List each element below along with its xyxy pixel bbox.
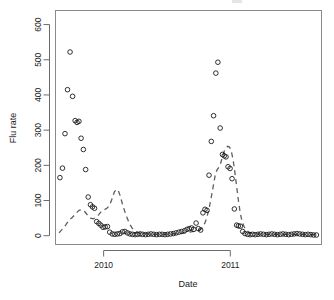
x-axis-title: Date <box>178 279 197 289</box>
y-tick-label: 600 <box>33 17 43 31</box>
x-tick-label: 2010 <box>94 260 113 270</box>
y-tick-label: 100 <box>33 193 43 207</box>
chart-background <box>0 0 334 300</box>
y-tick-label: 500 <box>33 52 43 66</box>
y-axis-title: Flu rate <box>8 113 18 144</box>
x-tick-label: 2011 <box>221 260 240 270</box>
cropped-title-artifact <box>232 0 242 3</box>
y-tick-label: 200 <box>33 158 43 172</box>
y-tick-label: 400 <box>33 88 43 102</box>
y-tick-label: 0 <box>33 233 43 238</box>
y-tick-label: 300 <box>33 123 43 137</box>
flu-rate-chart: 0100200300400500600 20102011 Flu rate Da… <box>0 0 334 300</box>
chart-canvas: 0100200300400500600 20102011 Flu rate Da… <box>0 0 334 300</box>
